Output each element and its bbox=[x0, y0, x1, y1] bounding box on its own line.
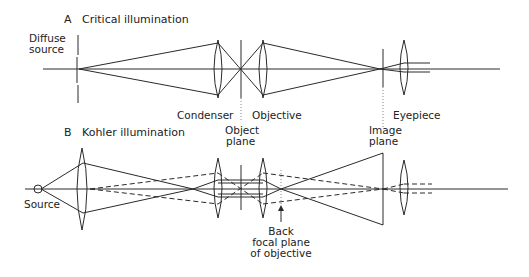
label-source: Source bbox=[24, 199, 60, 210]
diagram-b bbox=[25, 148, 508, 230]
label-objective: Objective bbox=[252, 110, 302, 121]
objective-lens-b bbox=[259, 158, 267, 218]
label-back-focal-line3: of objective bbox=[246, 248, 316, 259]
label-condenser: Condenser bbox=[177, 110, 233, 121]
label-object-plane-line2: plane bbox=[226, 136, 255, 147]
diagram-a-letter: A bbox=[64, 14, 72, 25]
eyepiece-lens-a bbox=[400, 40, 408, 95]
condenser-lens-b bbox=[214, 158, 222, 218]
label-diffuse-source-line2: source bbox=[29, 44, 64, 55]
label-image-plane-line2: plane bbox=[369, 136, 398, 147]
diagram-b-title: Kohler illumination bbox=[82, 127, 185, 138]
diagram-b-letter: B bbox=[64, 127, 72, 138]
diagram-a-title: Critical illumination bbox=[82, 14, 189, 25]
eyepiece-lens-b bbox=[400, 160, 408, 215]
label-eyepiece: Eyepiece bbox=[393, 110, 441, 121]
arrow-up-icon bbox=[278, 205, 284, 222]
